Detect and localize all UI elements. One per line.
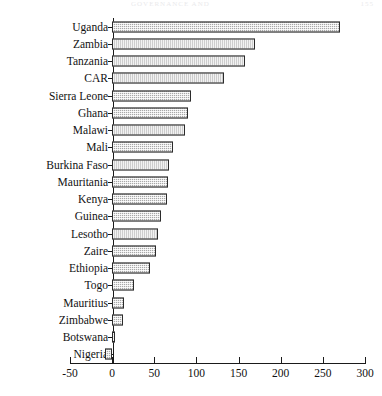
chart-row: Kenya [0, 191, 382, 208]
bar [112, 297, 124, 308]
x-axis-tick-label: 300 [356, 367, 373, 380]
category-label: Guinea [75, 210, 108, 222]
x-axis-tick-label: 250 [314, 367, 331, 380]
x-axis-tick-label: 100 [188, 367, 205, 380]
chart-row: Uganda [0, 18, 382, 35]
chart-row: Guinea [0, 208, 382, 225]
bar [112, 142, 173, 153]
x-axis-tick-label: 150 [230, 367, 247, 380]
category-label: Mali [86, 141, 108, 153]
x-axis-tick [365, 357, 366, 363]
category-label: Uganda [72, 21, 108, 33]
category-label: Kenya [78, 193, 108, 205]
bar [112, 56, 245, 67]
category-label: Burkina Faso [46, 159, 108, 171]
chart-row: Botswana [0, 329, 382, 346]
category-label: Zaire [84, 245, 108, 257]
chart-row: Togo [0, 277, 382, 294]
chart-row: Nigeria [0, 346, 382, 363]
bar [112, 280, 134, 291]
x-axis-tick [112, 357, 113, 363]
chart-row: Ethiopia [0, 260, 382, 277]
x-axis-tick-label: -50 [62, 367, 77, 380]
x-axis-line [70, 363, 366, 364]
bar [112, 38, 255, 49]
bar [112, 194, 167, 205]
horizontal-bar-chart: UgandaZambiaTanzaniaCARSierra LeoneGhana… [0, 0, 382, 396]
chart-row: Sierra Leone [0, 87, 382, 104]
bar [112, 125, 185, 136]
bar [112, 332, 115, 343]
chart-row: Ghana [0, 104, 382, 121]
category-label: Ethiopia [69, 262, 108, 274]
category-label: Botswana [63, 331, 108, 343]
chart-row: Tanzania [0, 53, 382, 70]
bar [112, 211, 161, 222]
bar [112, 176, 168, 187]
x-axis-tick [70, 357, 71, 363]
category-label: Zambia [73, 38, 108, 50]
bar [112, 90, 190, 101]
bar [112, 159, 169, 170]
category-label: Nigeria [74, 348, 108, 360]
chart-row: CAR [0, 70, 382, 87]
bar [112, 21, 340, 32]
chart-row: Lesotho [0, 225, 382, 242]
category-label: Tanzania [67, 55, 108, 67]
category-label: Lesotho [71, 228, 108, 240]
category-label: Sierra Leone [49, 90, 108, 102]
category-label: Mauritania [58, 176, 108, 188]
x-axis-tick-label: 50 [149, 367, 161, 380]
category-label: CAR [84, 72, 108, 84]
bar [112, 73, 224, 84]
chart-row: Mauritania [0, 173, 382, 190]
chart-row: Zambia [0, 35, 382, 52]
category-label: Togo [85, 279, 108, 291]
chart-row: Malawi [0, 122, 382, 139]
chart-row: Mauritius [0, 294, 382, 311]
x-axis-tick [323, 357, 324, 363]
bar [112, 263, 150, 274]
bar [112, 245, 156, 256]
chart-row: Burkina Faso [0, 156, 382, 173]
x-axis-tick-label: 200 [272, 367, 289, 380]
category-label: Mauritius [63, 297, 108, 309]
x-axis-tick [239, 357, 240, 363]
category-label: Zimbabwe [59, 314, 108, 326]
bar [112, 228, 158, 239]
chart-row: Zimbabwe [0, 311, 382, 328]
category-label: Malawi [73, 124, 108, 136]
bar [112, 314, 123, 325]
x-axis-tick [196, 357, 197, 363]
bar [112, 107, 188, 118]
x-axis-tick [154, 357, 155, 363]
chart-row: Mali [0, 139, 382, 156]
x-axis-tick [281, 357, 282, 363]
x-axis-tick-label: 0 [109, 367, 115, 380]
chart-row: Zaire [0, 242, 382, 259]
category-label: Ghana [78, 107, 108, 119]
bar [105, 349, 112, 360]
